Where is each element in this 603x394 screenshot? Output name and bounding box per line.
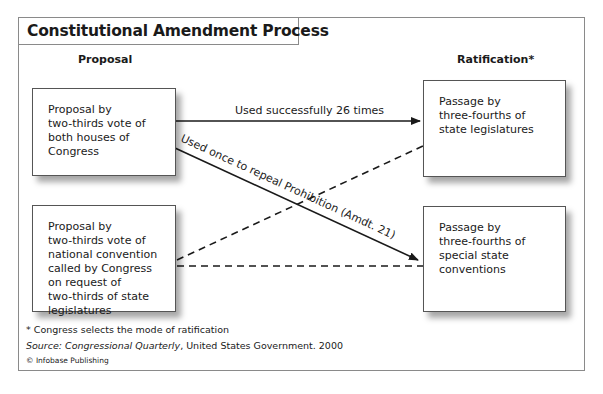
box-proposal-congress-text: Proposal by two-thirds vote of both hous… [48,103,146,159]
dashed-arrow-convention-to-legislatures [177,146,423,260]
box-proposal-convention: Proposal by two-thirds vote of national … [32,205,176,312]
source-title: Congressional Quarterly [65,340,180,351]
box-ratification-legislatures: Passage by three-fourths of state legisl… [423,80,566,177]
footnote-ratification-mode: * Congress selects the mode of ratificat… [26,324,229,335]
box-ratification-conventions-text: Passage by three-fourths of special stat… [439,221,525,277]
arrow-label-prohibition: Used once to repeal Prohibition (Amdt. 2… [179,132,398,242]
box-ratification-legislatures-text: Passage by three-fourths of state legisl… [439,95,534,137]
source-prefix: Source: [26,340,65,351]
copyright: © Infobase Publishing [26,356,109,365]
source-line: Source: Congressional Quarterly, United … [26,340,343,351]
box-proposal-congress: Proposal by two-thirds vote of both hous… [32,88,176,176]
source-rest: , United States Government. 2000 [180,340,343,351]
box-ratification-conventions: Passage by three-fourths of special stat… [423,206,566,312]
arrow-label-26-times: Used successfully 26 times [235,104,384,117]
box-proposal-convention-text: Proposal by two-thirds vote of national … [48,220,157,318]
